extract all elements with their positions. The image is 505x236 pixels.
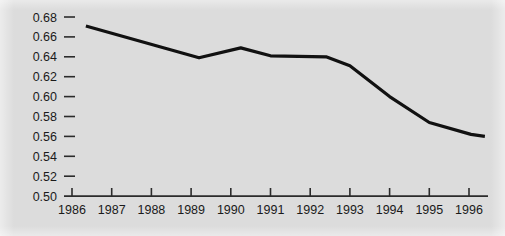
y-tick-label: 0.58 bbox=[33, 110, 57, 124]
x-tick-label: 1989 bbox=[177, 203, 205, 217]
x-tick-label: 1992 bbox=[296, 203, 324, 217]
x-tick-label: 1993 bbox=[336, 203, 364, 217]
y-tick-label: 0.60 bbox=[33, 90, 57, 104]
y-tick-label: 0.56 bbox=[33, 130, 57, 144]
x-tick-label: 1986 bbox=[58, 203, 86, 217]
chart-screenshot: 0.68 0.66 0.64 0.62 0.60 0.58 0.56 0.54 … bbox=[0, 0, 505, 236]
x-tick-label: 1995 bbox=[415, 203, 443, 217]
y-tick-label: 0.50 bbox=[33, 190, 57, 204]
y-tick-label: 0.62 bbox=[33, 70, 57, 84]
x-tick-label: 1996 bbox=[455, 203, 483, 217]
line-chart: 0.68 0.66 0.64 0.62 0.60 0.58 0.56 0.54 … bbox=[0, 0, 505, 236]
x-axis-tick-labels: 1986 1987 1988 1989 1990 1991 1992 1993 … bbox=[58, 203, 483, 217]
y-tick-label: 0.66 bbox=[33, 30, 57, 44]
y-axis-tick-labels: 0.68 0.66 0.64 0.62 0.60 0.58 0.56 0.54 … bbox=[33, 11, 57, 204]
y-tick-label: 0.52 bbox=[33, 170, 57, 184]
x-tick-label: 1987 bbox=[98, 203, 126, 217]
y-tick-label: 0.68 bbox=[33, 11, 57, 25]
y-tick-label: 0.54 bbox=[33, 150, 57, 164]
x-axis-ticks bbox=[72, 188, 469, 196]
data-series-line bbox=[86, 26, 485, 136]
x-tick-label: 1988 bbox=[137, 203, 165, 217]
y-tick-label: 0.64 bbox=[33, 50, 57, 64]
y-axis-ticks bbox=[64, 17, 75, 176]
x-tick-label: 1994 bbox=[376, 203, 404, 217]
x-tick-label: 1990 bbox=[217, 203, 245, 217]
x-tick-label: 1991 bbox=[257, 203, 285, 217]
